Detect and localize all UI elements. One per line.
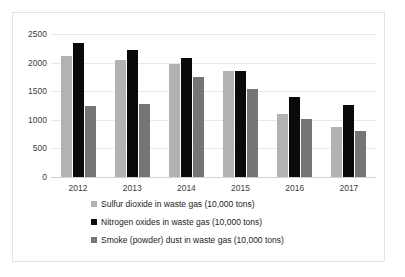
bar[interactable] (289, 97, 300, 177)
legend-label: Smoke (powder) dust in waste gas (10,000… (101, 236, 284, 245)
x-axis-tick-label: 2014 (159, 184, 213, 193)
x-axis-tick-label: 2016 (268, 184, 322, 193)
x-axis-tick-label: 2015 (214, 184, 268, 193)
bar-group-bars (105, 34, 159, 177)
bar[interactable] (127, 50, 138, 177)
bar-group: 2013 (105, 13, 159, 193)
legend-label: Nitrogen oxides in waste gas (10,000 ton… (101, 218, 262, 227)
y-axis-tick-label: 1500 (28, 87, 47, 96)
bars-area: 201220132014201520162017 (51, 13, 376, 193)
y-axis-tick-label: 2500 (28, 30, 47, 39)
x-axis-tick-label: 2017 (322, 184, 376, 193)
bar[interactable] (355, 131, 366, 177)
chart-legend: Sulfur dioxide in waste gas (10,000 tons… (13, 195, 386, 249)
legend-swatch-icon (91, 201, 97, 207)
y-axis: 05001000150020002500 (13, 13, 49, 193)
bar-group: 2015 (214, 13, 268, 193)
bar[interactable] (193, 77, 204, 177)
y-axis-tick-label: 500 (33, 144, 47, 153)
bar-group: 2017 (322, 13, 376, 193)
y-axis-tick-label: 0 (42, 173, 47, 182)
bar-group-bars (214, 34, 268, 177)
x-axis-tick-label: 2012 (51, 184, 105, 193)
bar[interactable] (277, 114, 288, 177)
bar-group-bars (159, 34, 213, 177)
y-axis-tick-label: 2000 (28, 58, 47, 67)
bar-group-bars (51, 34, 105, 177)
bar[interactable] (247, 89, 258, 177)
bar[interactable] (343, 105, 354, 177)
bar-group: 2016 (268, 13, 322, 193)
bar[interactable] (61, 56, 72, 177)
legend-swatch-icon (91, 237, 97, 243)
bar[interactable] (223, 71, 234, 177)
bar[interactable] (235, 71, 246, 177)
chart-container: 05001000150020002500 2012201320142015201… (12, 12, 385, 262)
y-axis-tick-label: 1000 (28, 116, 47, 125)
bar-group: 2012 (51, 13, 105, 193)
bar-group-bars (268, 34, 322, 177)
bar-group-bars (322, 34, 376, 177)
bar-group: 2014 (159, 13, 213, 193)
bar[interactable] (139, 104, 150, 177)
bar[interactable] (115, 60, 126, 177)
bar[interactable] (85, 106, 96, 177)
legend-item[interactable]: Nitrogen oxides in waste gas (10,000 ton… (91, 213, 386, 231)
bar[interactable] (181, 58, 192, 177)
bar[interactable] (301, 119, 312, 177)
bar[interactable] (331, 127, 342, 177)
bar[interactable] (169, 64, 180, 177)
plot-region: 05001000150020002500 2012201320142015201… (13, 13, 386, 193)
legend-swatch-icon (91, 219, 97, 225)
legend-label: Sulfur dioxide in waste gas (10,000 tons… (101, 200, 255, 209)
bar[interactable] (73, 43, 84, 177)
x-axis-tick-label: 2013 (105, 184, 159, 193)
legend-item[interactable]: Smoke (powder) dust in waste gas (10,000… (91, 231, 386, 249)
legend-item[interactable]: Sulfur dioxide in waste gas (10,000 tons… (91, 195, 386, 213)
